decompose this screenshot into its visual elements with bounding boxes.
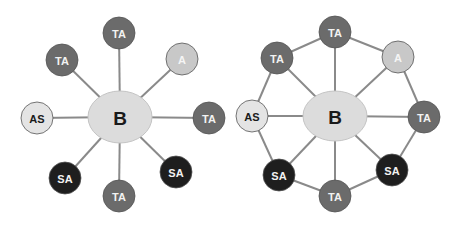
node-ta: TA — [261, 42, 293, 74]
node-label: TA — [55, 55, 69, 67]
star-diagram: BTAATASATASAASTA — [21, 17, 225, 212]
node-label: B — [113, 108, 127, 129]
center-node-b: B — [303, 91, 367, 141]
node-label: TA — [328, 27, 342, 39]
node-label: AS — [29, 113, 44, 125]
node-a: A — [382, 41, 414, 73]
node-sa: SA — [263, 159, 295, 191]
node-sa: SA — [49, 162, 81, 194]
node-label: SA — [57, 173, 72, 185]
node-label: TA — [417, 112, 431, 124]
node-label: SA — [384, 165, 399, 177]
node-ta: TA — [408, 101, 440, 133]
ring-star-diagram: BTAATASATASAASTA — [236, 16, 440, 212]
node-ta: TA — [193, 102, 225, 134]
node-ta: TA — [103, 17, 135, 49]
center-node-b: B — [88, 91, 152, 143]
node-label: TA — [202, 113, 216, 125]
node-ta: TA — [319, 180, 351, 212]
node-as: AS — [236, 100, 268, 132]
node-as: AS — [21, 102, 53, 134]
node-label: SA — [168, 167, 183, 179]
node-sa: SA — [160, 156, 192, 188]
node-label: TA — [328, 191, 342, 203]
node-label: TA — [112, 28, 126, 40]
node-label: A — [178, 54, 186, 66]
network-diagrams: BTAATASATASAASTA BTAATASATASAASTA — [0, 0, 462, 228]
node-label: A — [394, 52, 402, 64]
node-sa: SA — [376, 154, 408, 186]
node-label: TA — [112, 191, 126, 203]
node-ta: TA — [319, 16, 351, 48]
node-ta: TA — [103, 180, 135, 212]
node-label: TA — [270, 53, 284, 65]
node-label: B — [328, 107, 342, 128]
node-label: SA — [271, 170, 286, 182]
node-a: A — [166, 43, 198, 75]
node-label: AS — [244, 111, 259, 123]
node-ta: TA — [46, 44, 78, 76]
